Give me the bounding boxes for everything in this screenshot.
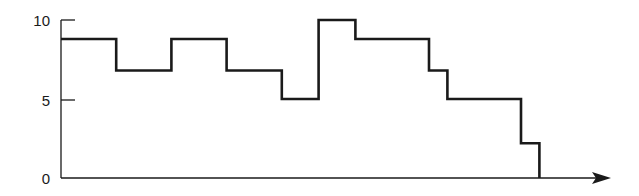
y-tick-label-10: 10 [33,12,50,29]
step-series-line [61,20,539,178]
x-axis [61,172,611,184]
y-tick-label-0: 0 [42,170,50,187]
y-tick-label-5: 5 [42,92,50,109]
step-chart: 10 5 0 [0,0,639,196]
